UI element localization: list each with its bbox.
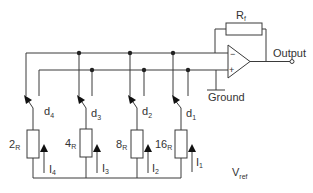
output-terminal bbox=[290, 60, 294, 64]
current-label-i4: I4 bbox=[49, 163, 56, 176]
wiper-d4 bbox=[27, 99, 33, 130]
resistor-label-4r: 4R bbox=[65, 137, 76, 150]
current-label-i2: I2 bbox=[152, 162, 159, 175]
arrowhead-i2 bbox=[144, 144, 152, 152]
resistor-label-2r: 2R bbox=[9, 138, 20, 151]
arrowhead-i1 bbox=[188, 144, 196, 152]
switch-label-d3: d3 bbox=[91, 107, 101, 121]
arrowhead-i4 bbox=[40, 144, 48, 152]
junction-dot bbox=[77, 51, 81, 55]
wiper-d2 bbox=[131, 99, 137, 130]
resistor-label-16r: 16R bbox=[155, 138, 172, 151]
junction-dot bbox=[128, 51, 132, 55]
wiper-d1 bbox=[174, 99, 181, 130]
inverting-sign: − bbox=[230, 49, 235, 59]
resistor-16r bbox=[175, 130, 187, 158]
vref-label: Vref bbox=[232, 166, 248, 180]
switch-label-d1: d1 bbox=[186, 107, 196, 121]
dac-circuit-diagram: − + Rf Output Ground d4 d3 d2 d1 2R 4R 8… bbox=[0, 0, 313, 193]
wiper-d3 bbox=[80, 99, 86, 129]
current-label-i3: I3 bbox=[102, 162, 109, 175]
junction-dot bbox=[90, 68, 94, 72]
switch-arrowhead-d3 bbox=[77, 95, 85, 104]
ground-label: Ground bbox=[208, 91, 245, 103]
resistor-4r bbox=[80, 129, 92, 157]
feedback-resistor bbox=[226, 23, 262, 35]
arrowhead-i3 bbox=[93, 144, 101, 152]
switch-arrowhead-d2 bbox=[128, 95, 136, 104]
non-inverting-sign: + bbox=[229, 65, 234, 75]
current-label-i1: I1 bbox=[196, 156, 203, 169]
junction-dot bbox=[142, 68, 146, 72]
output-label: Output bbox=[273, 47, 306, 59]
ground-bus-wire bbox=[39, 70, 228, 96]
junction-dot bbox=[186, 68, 190, 72]
feedback-resistor-label: Rf bbox=[236, 9, 246, 22]
resistor-2r bbox=[27, 130, 39, 158]
switch-arrowhead-d1 bbox=[172, 95, 180, 104]
switch-label-d2: d2 bbox=[142, 105, 152, 119]
resistor-8r bbox=[131, 130, 143, 158]
feedback-wire bbox=[215, 29, 266, 62]
inverting-bus-wire bbox=[26, 53, 228, 96]
switch-arrowhead-d4 bbox=[24, 95, 32, 104]
junction-dot bbox=[171, 51, 175, 55]
resistor-label-8r: 8R bbox=[116, 138, 127, 151]
switch-label-d4: d4 bbox=[44, 105, 54, 119]
